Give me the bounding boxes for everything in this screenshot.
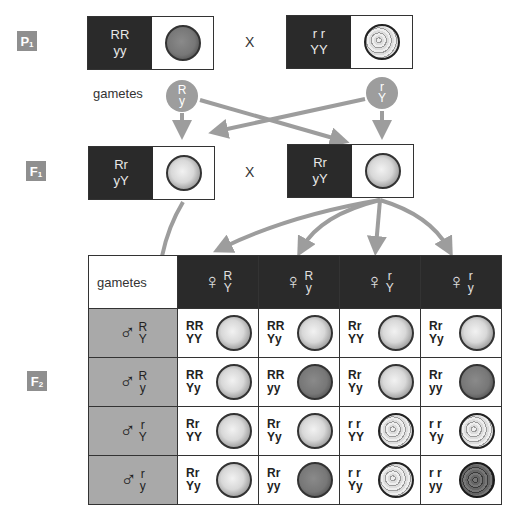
- male-symbol-icon: ♂: [120, 469, 137, 491]
- offspring-genotype: Rryy: [429, 369, 442, 395]
- generation-letter: F: [31, 374, 39, 389]
- genotype-line: yY: [312, 171, 327, 187]
- offspring-genotype: RrYy: [429, 320, 444, 346]
- pea-yellow-icon: [297, 315, 333, 351]
- cross-symbol: X: [245, 164, 254, 180]
- pea-round-yellow-icon: [166, 155, 202, 191]
- genotype-line: yy: [267, 480, 280, 493]
- female-gamete-header: ♀ rY: [340, 256, 421, 309]
- offspring-cell: RrYy: [178, 456, 259, 505]
- genotype-line: yy: [267, 382, 284, 395]
- parent-2-genotype: r r YY: [287, 16, 351, 68]
- f1-right-box: Rr yY: [287, 144, 414, 198]
- male-gamete-header: ♂Ry: [89, 358, 178, 407]
- male-gamete-header: ♂ry: [89, 456, 178, 505]
- offspring-cell: RrYy: [259, 407, 340, 456]
- cross-symbol: X: [245, 34, 254, 50]
- offspring-genotype: RRYy: [267, 320, 284, 346]
- generation-letter: P: [20, 34, 29, 49]
- pea-yellow-icon: [216, 364, 252, 400]
- generation-label-f2: F2: [27, 371, 47, 391]
- f1-left-box: Rr yY: [88, 146, 215, 200]
- offspring-cell: RRyy: [259, 358, 340, 407]
- pea-yellow-icon: [216, 413, 252, 449]
- offspring-cell: r ryy: [421, 456, 502, 505]
- pea-wrinkled-yellow-icon: [378, 413, 414, 449]
- genotype-line: RR: [111, 27, 130, 43]
- pea-wrinkled-green-icon: [459, 462, 495, 498]
- offspring-cell: RRYy: [259, 309, 340, 358]
- offspring-cell: Rryy: [259, 456, 340, 505]
- pea-yellow-icon: [297, 413, 333, 449]
- genotype-line: yy: [114, 43, 127, 59]
- genotype-line: yY: [113, 173, 128, 189]
- allele: y: [468, 282, 474, 294]
- genotype-line: Yy: [186, 480, 201, 493]
- offspring-cell: RRYY: [178, 309, 259, 358]
- corner-gametes-label: gametes: [89, 256, 178, 309]
- offspring-genotype: Rryy: [267, 467, 280, 493]
- genotype-line: Rr: [114, 157, 128, 173]
- punnett-row: ♂RyRRYyRRyyRrYyRryy: [89, 358, 502, 407]
- punnett-row: ♂rYRrYYRrYyr rYYr rYy: [89, 407, 502, 456]
- allele: y: [306, 282, 312, 294]
- generation-letter: F: [30, 164, 38, 179]
- genotype-line: yy: [429, 480, 442, 493]
- allele: y: [140, 382, 146, 394]
- offspring-genotype: RrYy: [186, 467, 201, 493]
- offspring-genotype: RRyy: [267, 369, 284, 395]
- pea-yellow-icon: [378, 364, 414, 400]
- generation-label-f1: F1: [26, 161, 46, 181]
- offspring-cell: RRYy: [178, 358, 259, 407]
- genotype-line: Yy: [429, 333, 444, 346]
- offspring-genotype: RrYy: [348, 369, 363, 395]
- pea-green-icon: [297, 462, 333, 498]
- gamete-arrows: [182, 99, 382, 140]
- genotype-line: Yy: [348, 480, 363, 493]
- genotype-line: YY: [348, 431, 364, 444]
- offspring-cell: RrYy: [340, 358, 421, 407]
- genotype-line: Yy: [348, 382, 363, 395]
- female-symbol-icon: ♀: [448, 271, 465, 293]
- genotype-line: Rr: [313, 155, 327, 171]
- f1-right-genotype: Rr yY: [288, 145, 352, 197]
- male-symbol-icon: ♂: [119, 322, 136, 344]
- offspring-genotype: RRYy: [186, 369, 203, 395]
- pea-yellow-icon: [216, 315, 252, 351]
- pea-wrinkled-yellow-icon: [459, 413, 495, 449]
- genotype-line: YY: [186, 431, 202, 444]
- offspring-cell: RrYY: [340, 309, 421, 358]
- allele: Y: [139, 431, 147, 443]
- offspring-cell: RrYy: [421, 309, 502, 358]
- offspring-genotype: r ryy: [429, 467, 442, 493]
- male-symbol-icon: ♂: [119, 371, 136, 393]
- offspring-genotype: r rYy: [348, 467, 363, 493]
- female-symbol-icon: ♀: [366, 271, 383, 293]
- female-gamete-header: ♀ Ry: [259, 256, 340, 309]
- female-symbol-icon: ♀: [204, 271, 221, 293]
- pea-wrinkled-yellow-icon: [364, 24, 400, 60]
- offspring-genotype: RrYY: [348, 320, 364, 346]
- pea-green-icon: [459, 364, 495, 400]
- generation-subscript: 1: [29, 40, 33, 49]
- parent-2-box: r r YY: [286, 15, 413, 69]
- genotype-line: Yy: [267, 333, 284, 346]
- pea-yellow-icon: [378, 315, 414, 351]
- genotype-line: Yy: [429, 431, 444, 444]
- gamete-rY: r Y: [366, 77, 398, 109]
- allele: Y: [378, 93, 386, 104]
- offspring-genotype: RrYy: [267, 418, 282, 444]
- offspring-cell: Rryy: [421, 358, 502, 407]
- offspring-cell: r rYy: [421, 407, 502, 456]
- gametes-label: gametes: [93, 86, 143, 101]
- pea-wrinkled-yellow-icon: [378, 462, 414, 498]
- genotype-line: YY: [310, 42, 327, 58]
- arrow-f1-right-to-female-3: [376, 200, 380, 246]
- offspring-genotype: r rYY: [348, 418, 364, 444]
- genotype-line: r r: [313, 26, 325, 42]
- offspring-cell: r rYY: [340, 407, 421, 456]
- allele: Y: [386, 282, 394, 294]
- pea-green-icon: [297, 364, 333, 400]
- generation-subscript: 1: [38, 170, 42, 179]
- punnett-row: ♂ryRrYyRryyr rYyr ryy: [89, 456, 502, 505]
